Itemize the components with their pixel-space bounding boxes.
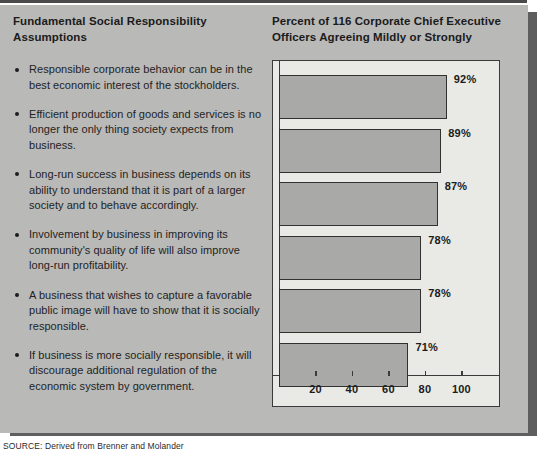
bar-chart-plot: 92%89%87%78%78%71%20406080100 xyxy=(272,60,500,407)
list-item: Long-run success in business depends on … xyxy=(13,167,267,214)
plot-inner-area: 92%89%87%78%78%71%20406080100 xyxy=(273,61,499,406)
bullet-dot-icon xyxy=(15,172,19,176)
bar-row: 78% xyxy=(279,236,498,280)
bullet-dot-icon xyxy=(15,112,19,116)
bullet-dot-icon xyxy=(15,233,19,237)
figure-container: Fundamental Social Responsibility Assump… xyxy=(0,0,549,452)
bar-value-label: 87% xyxy=(445,180,468,192)
x-axis-tick-label: 100 xyxy=(452,383,471,395)
bar-row: 89% xyxy=(279,129,498,173)
list-item: Involvement by business in improving its… xyxy=(13,227,267,274)
bar xyxy=(279,129,441,173)
bar xyxy=(279,182,438,226)
x-axis-tick-label: 40 xyxy=(346,383,359,395)
bar-value-label: 78% xyxy=(428,287,451,299)
bar xyxy=(279,236,421,280)
list-item: If business is more socially responsible… xyxy=(13,348,267,395)
list-item-label: Responsible corporate behavior can be in… xyxy=(29,63,253,91)
x-axis-tick xyxy=(425,371,426,376)
bar-value-label: 71% xyxy=(415,341,438,353)
bar-value-label: 92% xyxy=(454,73,477,85)
list-item-label: A business that wishes to capture a favo… xyxy=(29,289,260,332)
chart-title: Percent of 116 Corporate Chief Executive… xyxy=(272,14,512,45)
list-item-label: Long-run success in business depends on … xyxy=(29,168,251,211)
x-axis-tick xyxy=(315,371,316,376)
list-item: Efficient production of goods and servic… xyxy=(13,107,267,154)
x-axis-tick-label: 20 xyxy=(309,383,322,395)
bar-row: 71% xyxy=(279,343,498,387)
chart-column: Percent of 116 Corporate Chief Executive… xyxy=(272,14,516,407)
x-axis-tick xyxy=(388,371,389,376)
list-item-label: If business is more socially responsible… xyxy=(29,349,252,392)
assumptions-list: Responsible corporate behavior can be in… xyxy=(13,62,265,395)
list-item: A business that wishes to capture a favo… xyxy=(13,288,267,335)
x-axis-tick-label: 80 xyxy=(419,383,432,395)
bar-row: 87% xyxy=(279,182,498,226)
list-item-label: Efficient production of goods and servic… xyxy=(29,108,261,151)
top-rule-divider xyxy=(0,0,527,3)
bullet-dot-icon xyxy=(15,293,19,297)
bar-row: 92% xyxy=(279,75,498,119)
assumptions-heading: Fundamental Social Responsibility Assump… xyxy=(13,14,253,45)
bullet-dot-icon xyxy=(15,353,19,357)
list-item: Responsible corporate behavior can be in… xyxy=(13,62,267,93)
x-axis-tick-label: 60 xyxy=(382,383,395,395)
bar-value-label: 89% xyxy=(448,127,471,139)
bar xyxy=(279,75,447,119)
exhibit-panel: Fundamental Social Responsibility Assump… xyxy=(0,5,528,433)
assumptions-column: Fundamental Social Responsibility Assump… xyxy=(13,14,265,408)
x-axis-tick xyxy=(352,371,353,376)
list-item-label: Involvement by business in improving its… xyxy=(29,228,240,271)
bullet-dot-icon xyxy=(15,68,19,72)
source-note: SOURCE: Derived from Brenner and Molande… xyxy=(3,441,184,451)
bar xyxy=(279,289,421,333)
bar-value-label: 78% xyxy=(428,234,451,246)
bar-row: 78% xyxy=(279,289,498,333)
bar xyxy=(279,343,408,387)
x-axis-tick xyxy=(461,371,462,376)
